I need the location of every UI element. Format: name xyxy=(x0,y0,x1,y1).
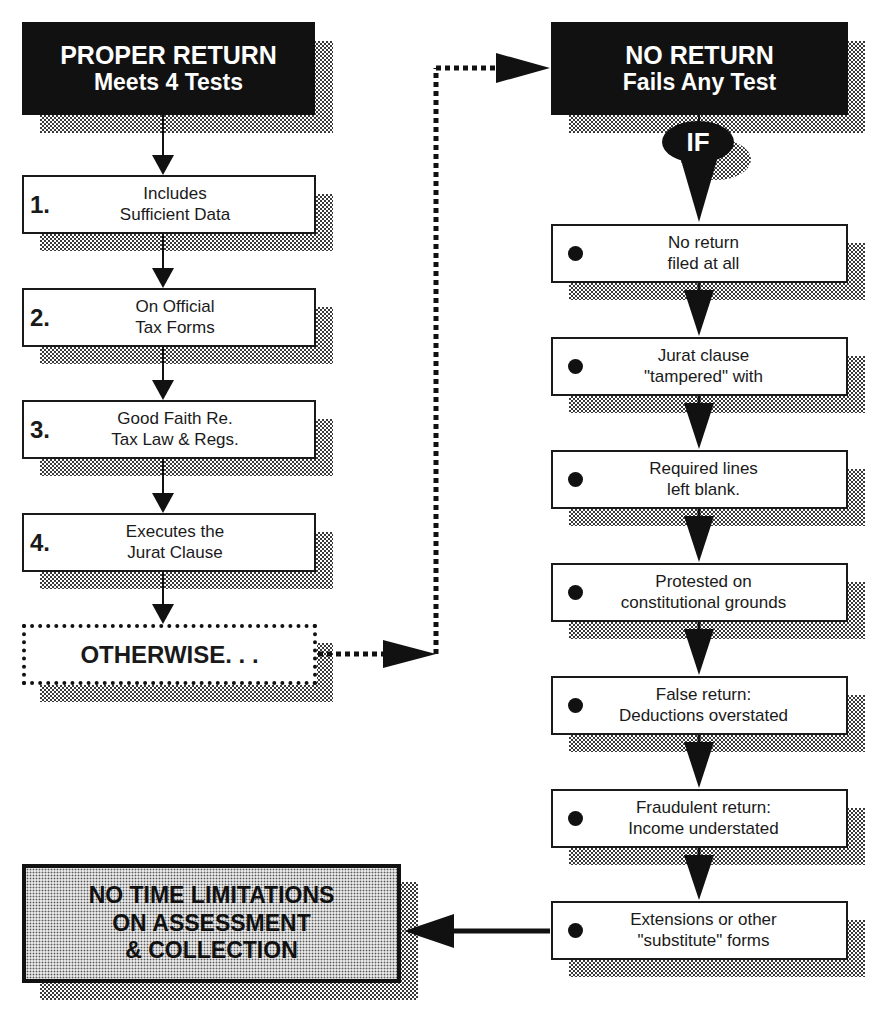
otherwise-to-no-return-arrow xyxy=(318,53,550,668)
connector-arrows xyxy=(0,0,881,1017)
to-result-arrow xyxy=(404,914,550,948)
right-column-arrows xyxy=(681,115,717,900)
left-column-arrows xyxy=(152,115,174,624)
